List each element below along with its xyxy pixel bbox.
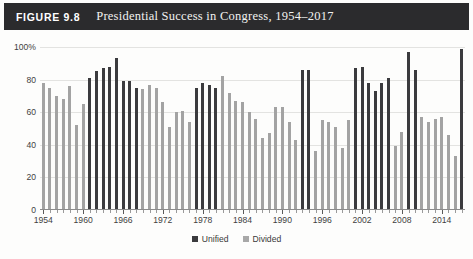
- x-axis-tick-label: 1966: [113, 215, 132, 225]
- bar-1976: [188, 122, 191, 210]
- x-axis-tick: [422, 210, 423, 213]
- bar-1955: [48, 88, 51, 210]
- x-axis-tick: [169, 210, 170, 213]
- y-axis-tick-label: 40: [0, 140, 36, 150]
- x-axis-tick: [395, 210, 396, 213]
- y-axis-tick-label: 0: [0, 205, 36, 215]
- bar-1964: [108, 67, 111, 210]
- legend-item-divided[interactable]: Divided: [243, 234, 282, 244]
- x-axis-tick: [50, 210, 51, 213]
- x-axis-tick: [415, 210, 416, 213]
- bar-2017: [460, 49, 463, 210]
- x-axis-tick: [130, 210, 131, 213]
- x-axis-tick: [276, 210, 277, 213]
- legend-item-unified[interactable]: Unified: [192, 234, 229, 244]
- x-axis-tick: [110, 210, 111, 213]
- bar-1973: [168, 127, 171, 210]
- x-axis-tick: [176, 210, 177, 213]
- plot-area: [40, 47, 465, 210]
- x-axis-tick: [216, 210, 217, 213]
- x-axis-tick: [163, 210, 164, 214]
- x-axis-tick: [455, 210, 456, 213]
- bar-2011: [420, 117, 423, 210]
- bar-2012: [427, 122, 430, 210]
- x-axis-tick: [70, 210, 71, 213]
- bar-1997: [327, 122, 330, 210]
- x-axis-tick: [296, 210, 297, 213]
- bar-1991: [288, 122, 291, 210]
- bar-1999: [341, 148, 344, 210]
- x-axis-tick: [243, 210, 244, 214]
- x-axis-tick: [203, 210, 204, 214]
- x-axis-tick: [336, 210, 337, 213]
- x-axis-tick: [289, 210, 290, 213]
- x-axis-tick-label: 1990: [273, 215, 292, 225]
- x-axis-tick: [322, 210, 323, 214]
- x-axis-tick: [156, 210, 157, 213]
- x-axis-tick: [282, 210, 283, 214]
- x-axis-tick: [375, 210, 376, 213]
- x-axis-tick: [382, 210, 383, 213]
- x-axis-tick-label: 2008: [392, 215, 411, 225]
- y-axis-tick-label: 80: [0, 75, 36, 85]
- x-axis-tick: [116, 210, 117, 213]
- x-axis-tick: [223, 210, 224, 213]
- x-axis-tick: [249, 210, 250, 213]
- x-axis-tick: [302, 210, 303, 213]
- x-axis-tick: [448, 210, 449, 213]
- x-axis-tick: [389, 210, 390, 213]
- bar-1971: [155, 88, 158, 210]
- bar-1975: [181, 111, 184, 210]
- bar-1957: [62, 99, 65, 210]
- x-axis-tick: [136, 210, 137, 213]
- bar-1992: [294, 140, 297, 210]
- bar-1982: [228, 93, 231, 210]
- figure-number-label: FIGURE 9.8: [16, 11, 80, 23]
- bar-2004: [374, 91, 377, 210]
- x-axis-tick-label: 1972: [153, 215, 172, 225]
- bar-2005: [380, 83, 383, 210]
- bar-1984: [241, 102, 244, 210]
- x-axis-tick-label: 1954: [34, 215, 53, 225]
- x-axis-tick: [262, 210, 263, 213]
- bar-1970: [148, 85, 151, 211]
- x-axis-tick: [150, 210, 151, 213]
- bar-1993: [301, 70, 304, 210]
- bar-1985: [248, 112, 251, 210]
- bar-1996: [321, 120, 324, 210]
- x-axis-tick: [77, 210, 78, 213]
- bar-1974: [175, 112, 178, 210]
- x-axis-tick: [369, 210, 370, 213]
- x-axis-tick: [329, 210, 330, 213]
- x-axis-tick-label: 1978: [193, 215, 212, 225]
- legend-label: Unified: [202, 234, 229, 244]
- x-axis-tick: [442, 210, 443, 214]
- bar-1994: [307, 70, 310, 210]
- x-axis-tick: [103, 210, 104, 213]
- x-axis-tick: [43, 210, 44, 214]
- x-axis-tick-label: 2002: [353, 215, 372, 225]
- bar-1986: [254, 119, 257, 210]
- bar-1983: [234, 101, 237, 210]
- bar-2006: [387, 78, 390, 210]
- x-axis-tick: [196, 210, 197, 213]
- bar-1998: [334, 127, 337, 210]
- bar-1960: [82, 104, 85, 210]
- x-axis-tick: [355, 210, 356, 213]
- x-axis-tick: [409, 210, 410, 213]
- x-axis-tick: [428, 210, 429, 213]
- bar-1990: [281, 107, 284, 210]
- bar-1956: [55, 96, 58, 210]
- x-axis-tick: [269, 210, 270, 213]
- x-axis-tick: [362, 210, 363, 214]
- bar-1958: [68, 86, 71, 210]
- x-axis-tick: [96, 210, 97, 213]
- bar-1959: [75, 125, 78, 210]
- bar-1965: [115, 58, 118, 210]
- bar-2008: [400, 132, 403, 210]
- x-axis-tick: [57, 210, 58, 213]
- bar-1961: [88, 78, 91, 210]
- x-axis-tick: [236, 210, 237, 213]
- figure-title-text: Presidential Success in Congress, 1954–2…: [96, 9, 333, 24]
- bar-1963: [102, 68, 105, 210]
